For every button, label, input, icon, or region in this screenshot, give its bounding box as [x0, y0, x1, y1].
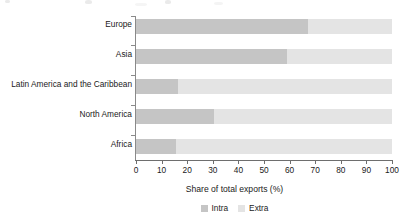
y-axis-label-north-america: North America: [0, 109, 132, 119]
bar-row-africa[interactable]: [136, 139, 392, 154]
legend-item-extra[interactable]: Extra: [238, 203, 268, 213]
bar-segment-extra[interactable]: [214, 109, 392, 124]
bar-row-latin-america[interactable]: [136, 79, 392, 94]
y-axis-label-latin-america: Latin America and the Caribbean: [0, 79, 132, 89]
y-axis-label-asia: Asia: [0, 49, 132, 59]
bar-segment-intra[interactable]: [136, 19, 308, 34]
x-axis-tick-mark: [392, 160, 393, 164]
legend-label-extra: Extra: [249, 203, 268, 213]
bar-row-europe[interactable]: [136, 19, 392, 34]
x-axis-tick-label: 30: [200, 165, 226, 175]
bar-segment-intra[interactable]: [136, 139, 176, 154]
x-axis-tick-mark: [366, 160, 367, 164]
y-axis-label-europe: Europe: [0, 19, 132, 29]
x-axis-tick-label: 100: [379, 165, 405, 175]
x-axis-tick-mark: [162, 160, 163, 164]
chart-legend: Intra Extra: [0, 203, 407, 213]
bar-row-asia[interactable]: [136, 49, 392, 64]
x-axis-tick-mark: [136, 160, 137, 164]
x-axis-tick-mark: [264, 160, 265, 164]
x-axis-tick-mark: [315, 160, 316, 164]
x-axis-tick-mark: [290, 160, 291, 164]
x-axis-tick-label: 60: [277, 165, 303, 175]
y-axis-label-africa: Africa: [0, 139, 132, 149]
bar-segment-extra[interactable]: [308, 19, 392, 34]
bar-row-north-america[interactable]: [136, 109, 392, 124]
x-axis-tick-label: 40: [225, 165, 251, 175]
x-axis-tick-label: 50: [251, 165, 277, 175]
x-axis-tick-mark: [238, 160, 239, 164]
x-axis-tick-mark: [187, 160, 188, 164]
bar-segment-intra[interactable]: [136, 49, 287, 64]
x-axis-tick-mark: [213, 160, 214, 164]
x-axis-title-text: Share of total exports (%): [186, 184, 283, 194]
legend-swatch-intra: [201, 205, 208, 212]
x-axis-tick-label: 90: [353, 165, 379, 175]
legend-swatch-extra: [238, 205, 245, 212]
legend-item-intra[interactable]: Intra: [201, 203, 229, 213]
x-axis-tick-label: 70: [302, 165, 328, 175]
legend-label-intra: Intra: [212, 203, 229, 213]
bar-segment-extra[interactable]: [178, 79, 392, 94]
bar-segment-intra[interactable]: [136, 109, 214, 124]
x-axis-tick-mark: [341, 160, 342, 164]
x-axis-tick-label: 10: [149, 165, 175, 175]
bar-segment-intra[interactable]: [136, 79, 178, 94]
bar-segment-extra[interactable]: [287, 49, 392, 64]
x-axis-tick-label: 20: [174, 165, 200, 175]
x-axis-tick-label: 80: [328, 165, 354, 175]
stacked-bar-chart: Europe Asia Latin America and the Caribb…: [0, 0, 407, 220]
plot-area: [136, 17, 392, 159]
x-axis-title: Share of total exports (%): [0, 184, 407, 194]
bar-segment-extra[interactable]: [176, 139, 392, 154]
x-axis-tick-label: 0: [123, 165, 149, 175]
